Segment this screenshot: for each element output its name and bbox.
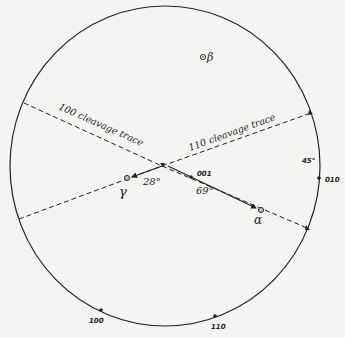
pole-100-dot <box>99 308 103 312</box>
alpha-angle-label: 69° <box>196 185 214 196</box>
alpha-label: α <box>254 213 262 227</box>
alpha-point-icon <box>258 207 263 212</box>
rim-angle-label: 45° <box>302 157 315 165</box>
primitive-circle <box>10 6 320 326</box>
gamma-point-icon <box>124 175 129 180</box>
trace-100-line-b <box>162 166 307 228</box>
trace-100-line-a <box>24 103 162 166</box>
beta-label: β <box>206 51 213 64</box>
pole-100-label: 100 <box>89 317 104 325</box>
stereonet-svg: β γ α 100 cleavage trace 110 cleavage tr… <box>0 0 345 338</box>
trace-110-label: 110 cleavage trace <box>187 111 277 153</box>
pole-001-label: 001 <box>197 170 212 178</box>
gamma-label: γ <box>119 184 127 199</box>
trace-110-line-b <box>162 113 311 166</box>
pole-110-dot <box>213 314 217 318</box>
pole-010-dot <box>317 176 321 180</box>
gamma-angle-label: 28° <box>142 176 161 187</box>
pole-010-label: 010 <box>325 176 340 184</box>
stereonet-diagram: β γ α 100 cleavage trace 110 cleavage tr… <box>0 0 345 338</box>
pole-110-label: 110 <box>211 323 226 331</box>
pole-001-dot <box>189 175 193 179</box>
